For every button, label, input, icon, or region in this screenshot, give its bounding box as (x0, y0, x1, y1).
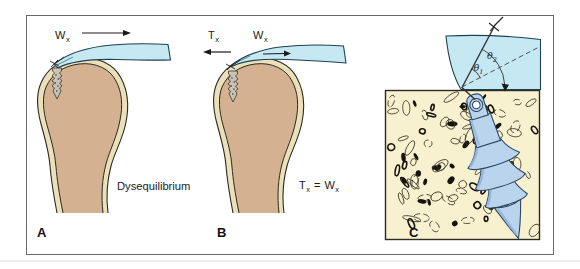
equation-equals: = (314, 179, 320, 191)
force-wx-main: W (55, 29, 66, 41)
bone-texture-mark (447, 121, 457, 126)
figure-canvas: Wx Dysequilibrium A Tx Wx Tx=Wx B (0, 0, 580, 269)
force-wx-sub: x (66, 35, 70, 44)
equation-lhs-sub: x (306, 185, 310, 194)
equation-lhs-main: T (299, 179, 306, 191)
figure-page: Wx Dysequilibrium A Tx Wx Tx=Wx B (0, 0, 580, 269)
theta1-sub: 1 (479, 68, 483, 76)
theta2-sub: 2 (492, 56, 497, 64)
force-tx-main: T (208, 29, 215, 41)
force-wx-main: W (253, 29, 264, 41)
panel-label-b: B (217, 225, 226, 240)
equation-rhs-sub: x (335, 185, 339, 194)
force-wx-sub: x (264, 35, 268, 44)
force-tx-sub: x (215, 35, 219, 44)
caption-dysequilibrium: Dysequilibrium (117, 180, 190, 192)
equation-rhs-main: W (324, 179, 335, 191)
panel-label-c: C (409, 225, 419, 240)
panel-label-a: A (37, 225, 47, 240)
